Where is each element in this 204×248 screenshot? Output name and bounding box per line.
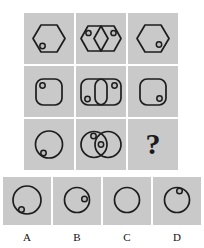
answer-option-b[interactable]: B [53, 177, 101, 243]
circle-one-dot-upper-right-icon [153, 177, 201, 225]
matrix-cell-r1c2[interactable] [76, 13, 126, 64]
answer-option-d-box[interactable] [153, 177, 201, 225]
matrix-reasoning-puzzle: ? A B [0, 0, 204, 248]
rounded-square-one-dot-upper-left-icon [24, 66, 74, 117]
answer-option-a[interactable]: A [3, 177, 51, 243]
answer-option-a-box[interactable] [3, 177, 51, 225]
answer-option-c[interactable]: C [103, 177, 151, 243]
circle-one-dot-lower-left-icon [24, 119, 74, 170]
matrix-cell-r2c2[interactable] [76, 66, 126, 117]
matrix-cell-r1c3[interactable] [128, 13, 178, 64]
hexagon-one-dot-lower-left-icon [24, 13, 74, 64]
answer-option-a-label: A [3, 231, 51, 243]
double-rounded-square-two-dots-icon [76, 66, 126, 117]
matrix-cell-r2c1[interactable] [24, 66, 74, 117]
circle-one-dot-right-icon [53, 177, 101, 225]
double-circle-two-dots-icon [76, 119, 126, 170]
answer-option-b-label: B [53, 231, 101, 243]
matrix-cell-r2c3[interactable] [128, 66, 178, 117]
answer-option-d[interactable]: D [153, 177, 201, 243]
question-mark-label: ? [128, 119, 178, 170]
answer-option-b-box[interactable] [53, 177, 101, 225]
rounded-square-one-dot-lower-right-icon [128, 66, 178, 117]
matrix-cell-r3c3-missing[interactable]: ? [128, 119, 178, 170]
matrix-cell-r3c1[interactable] [24, 119, 74, 170]
matrix-cell-r3c2[interactable] [76, 119, 126, 170]
answer-option-c-box[interactable] [103, 177, 151, 225]
double-hexagon-two-dots-icon [76, 13, 126, 64]
matrix-grid: ? [24, 13, 178, 170]
answer-option-d-label: D [153, 231, 201, 243]
circle-plain-icon [103, 177, 151, 225]
answer-option-c-label: C [103, 231, 151, 243]
hexagon-one-dot-lower-right-icon [128, 13, 178, 64]
matrix-cell-r1c1[interactable] [24, 13, 74, 64]
answer-options: A B C [3, 177, 201, 243]
circle-one-dot-lower-left-icon [3, 177, 51, 225]
